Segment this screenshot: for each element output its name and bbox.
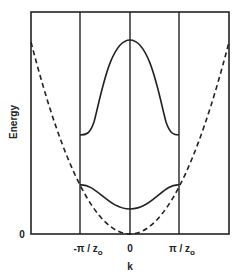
y-axis-label: Energy <box>8 105 19 139</box>
x-tick-zero: 0 <box>127 243 133 254</box>
x-tick-neg-pi-z0: -π / zo <box>73 243 102 257</box>
band-structure-diagram: Energy 0 -π / zo 0 π / zo k <box>0 0 239 278</box>
y-origin-label: 0 <box>19 229 25 240</box>
x-axis-label: k <box>127 261 133 272</box>
x-tick-pi-z0: π / zo <box>169 243 195 257</box>
